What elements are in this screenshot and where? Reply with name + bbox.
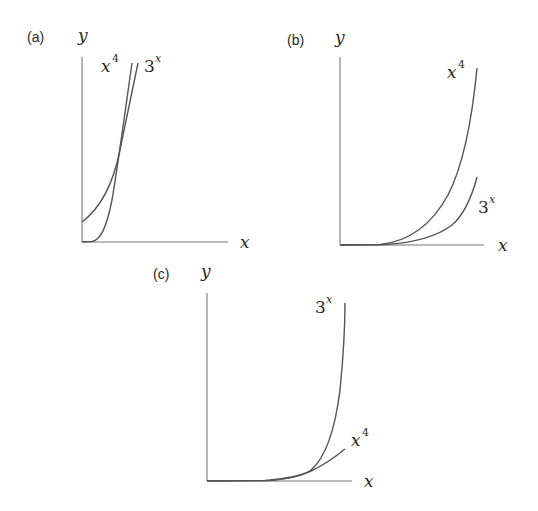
- panel-b-y-axis-label: y: [334, 27, 345, 47]
- panel-a-curve1-label: x 4: [101, 52, 119, 76]
- panel-c-curve1-label: 3 x: [315, 293, 333, 317]
- panel-a: (a) y x x 4 3 x: [27, 25, 250, 252]
- panel-b-x-axis-label: x: [498, 235, 508, 255]
- panel-c-label: (c): [153, 266, 169, 282]
- panel-b-curve2-label: 3 x: [478, 193, 496, 217]
- panel-a-curve2-label: 3 x: [144, 52, 162, 76]
- svg-text:x: x: [101, 56, 111, 76]
- panel-c: (c) y x 3 x x 4: [153, 261, 374, 491]
- svg-text:x: x: [326, 293, 333, 306]
- svg-text:3: 3: [144, 56, 155, 76]
- svg-text:3: 3: [315, 297, 326, 317]
- svg-text:x: x: [155, 52, 162, 65]
- panel-c-curve-x4: [207, 449, 345, 481]
- panel-c-y-axis-label: y: [200, 261, 211, 281]
- svg-text:4: 4: [362, 426, 369, 439]
- panel-c-x-axis-label: x: [364, 471, 374, 491]
- panel-b-label: (b): [287, 32, 304, 48]
- panel-c-curve-3x: [207, 303, 345, 481]
- panel-a-x-axis-label: x: [240, 232, 250, 252]
- panel-c-curve2-label: x 4: [351, 426, 369, 450]
- panel-a-curve-3x: [82, 63, 138, 222]
- svg-text:4: 4: [458, 58, 465, 71]
- panel-b: (b) y x x 4 3 x: [287, 27, 508, 255]
- svg-text:x: x: [489, 193, 496, 206]
- panel-a-label: (a): [27, 29, 44, 45]
- panel-b-curve-x4: [340, 68, 477, 245]
- figure-canvas: (a) y x x 4 3 x (b) y x x 4 3 x: [0, 0, 538, 511]
- svg-text:x: x: [447, 62, 457, 82]
- panel-b-curve1-label: x 4: [447, 58, 465, 82]
- svg-text:x: x: [351, 430, 361, 450]
- panel-a-y-axis-label: y: [77, 25, 88, 45]
- svg-text:4: 4: [112, 52, 119, 65]
- panel-b-curve-3x: [340, 177, 477, 245]
- svg-text:3: 3: [478, 197, 489, 217]
